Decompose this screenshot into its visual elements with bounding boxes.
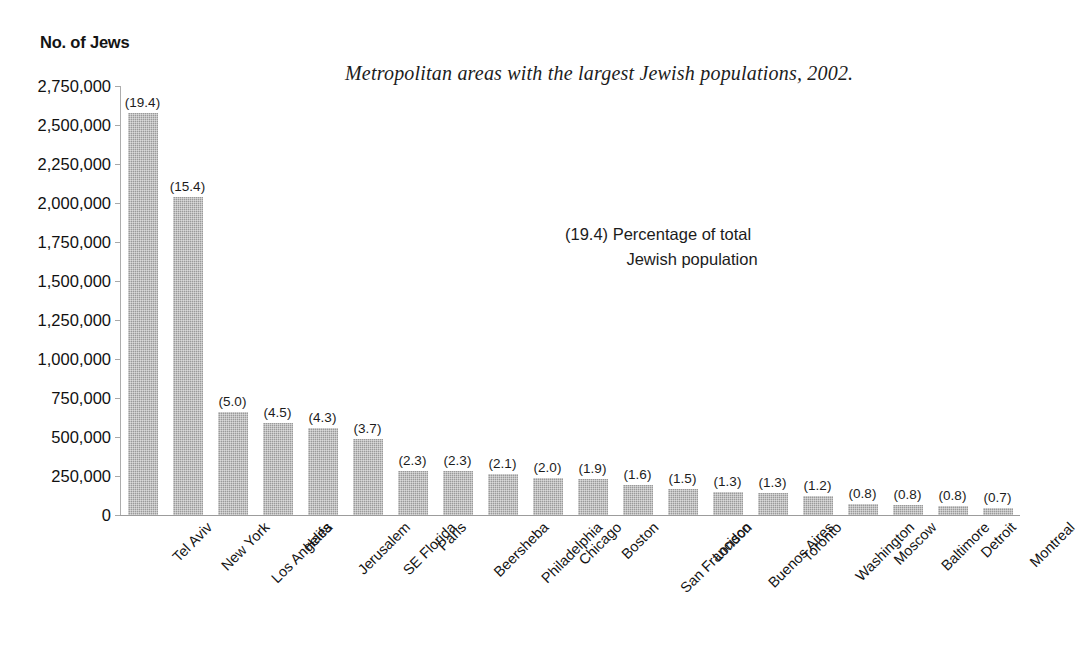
bar[interactable]: (5.0): [218, 412, 248, 515]
bar-item[interactable]: (2.3): [398, 86, 428, 515]
bar-item[interactable]: (0.8): [893, 86, 923, 515]
bar[interactable]: (1.2): [803, 496, 833, 515]
bar-value-label: (2.0): [534, 460, 562, 475]
bar-value-label: (3.7): [354, 421, 382, 436]
bar[interactable]: (1.3): [713, 492, 743, 515]
bar-value-label: (15.4): [170, 179, 205, 194]
bar-item[interactable]: (15.4): [173, 86, 203, 515]
bar[interactable]: (1.6): [623, 485, 653, 515]
y-tick-mark: [115, 125, 120, 126]
y-axis-title: No. of Jews: [40, 33, 130, 52]
bar[interactable]: (2.3): [398, 471, 428, 515]
y-tick-mark: [115, 359, 120, 360]
y-tick-label: 250,000: [51, 467, 111, 486]
y-tick-mark: [115, 515, 120, 516]
bar[interactable]: (0.8): [893, 505, 923, 515]
y-tick-label: 2,250,000: [38, 155, 111, 174]
bar-item[interactable]: (4.3): [308, 86, 338, 515]
bar[interactable]: (2.0): [533, 478, 563, 515]
bar-item[interactable]: (1.6): [623, 86, 653, 515]
y-tick-label: 0: [102, 506, 111, 525]
bar-value-label: (0.7): [984, 490, 1012, 505]
bar-item[interactable]: (0.8): [938, 86, 968, 515]
bar[interactable]: (3.7): [353, 439, 383, 515]
bar-value-label: (1.6): [624, 467, 652, 482]
bar-item[interactable]: (2.1): [488, 86, 518, 515]
bar-value-label: (2.3): [444, 453, 472, 468]
x-category-label: Montreal: [1026, 519, 1077, 570]
bar-item[interactable]: (2.3): [443, 86, 473, 515]
y-tick-mark: [115, 398, 120, 399]
y-tick-label: 2,000,000: [38, 194, 111, 213]
bar-item[interactable]: (1.2): [803, 86, 833, 515]
x-axis-category-labels: Tel AvivNew YorkLos AngelesHaifaJerusale…: [120, 519, 1020, 659]
x-category-label: London: [709, 519, 755, 565]
bar[interactable]: (2.3): [443, 471, 473, 515]
x-category-label: Boston: [618, 519, 661, 562]
bar-value-label: (4.5): [264, 405, 292, 420]
bar[interactable]: (4.5): [263, 423, 293, 515]
bar-item[interactable]: (19.4): [128, 86, 158, 515]
bar-item[interactable]: (1.3): [713, 86, 743, 515]
bar-value-label: (2.3): [399, 453, 427, 468]
bar-value-label: (0.8): [939, 488, 967, 503]
bar-value-label: (4.3): [309, 410, 337, 425]
y-tick-label: 2,750,000: [38, 77, 111, 96]
y-tick-mark: [115, 281, 120, 282]
bar[interactable]: (1.5): [668, 489, 698, 515]
bar-item[interactable]: (1.3): [758, 86, 788, 515]
y-tick-label: 500,000: [51, 428, 111, 447]
bar-value-label: (5.0): [219, 394, 247, 409]
bar[interactable]: (0.8): [938, 506, 968, 515]
bar[interactable]: (2.1): [488, 474, 518, 515]
bar-value-label: (2.1): [489, 456, 517, 471]
bar[interactable]: (15.4): [173, 197, 203, 515]
y-tick-mark: [115, 476, 120, 477]
y-tick-mark: [115, 203, 120, 204]
bar[interactable]: (4.3): [308, 428, 338, 515]
bar-item[interactable]: (4.5): [263, 86, 293, 515]
y-tick-mark: [115, 437, 120, 438]
bar-value-label: (1.5): [669, 471, 697, 486]
bar-value-label: (0.8): [849, 486, 877, 501]
bar-item[interactable]: (3.7): [353, 86, 383, 515]
bar-item[interactable]: (5.0): [218, 86, 248, 515]
bar-item[interactable]: (1.5): [668, 86, 698, 515]
bar-value-label: (1.9): [579, 461, 607, 476]
bar[interactable]: (0.8): [848, 504, 878, 515]
plot-area: 2,750,0002,500,0002,250,0002,000,0001,75…: [120, 86, 1020, 515]
x-category-label: Tel Aviv: [169, 519, 215, 565]
bar[interactable]: (19.4): [128, 113, 158, 515]
y-tick-mark: [115, 164, 120, 165]
x-category-label: New York: [217, 519, 272, 574]
y-tick-label: 1,250,000: [38, 311, 111, 330]
bar-item[interactable]: (0.7): [983, 86, 1013, 515]
bar-item[interactable]: (0.8): [848, 86, 878, 515]
y-tick-label: 1,500,000: [38, 272, 111, 291]
y-tick-mark: [115, 242, 120, 243]
y-axis-line: [120, 86, 121, 516]
bar-value-label: (1.3): [714, 474, 742, 489]
bar-value-label: (1.2): [804, 478, 832, 493]
figure-title: Metropolitan areas with the largest Jewi…: [345, 62, 853, 85]
y-tick-label: 1,750,000: [38, 233, 111, 252]
bar-value-label: (0.8): [894, 487, 922, 502]
bar-value-label: (19.4): [125, 95, 160, 110]
y-tick-mark: [115, 86, 120, 87]
bar[interactable]: (0.7): [983, 508, 1013, 515]
y-tick-label: 1,000,000: [38, 350, 111, 369]
bar-item[interactable]: (2.0): [533, 86, 563, 515]
bar-value-label: (1.3): [759, 475, 787, 490]
y-tick-label: 750,000: [51, 389, 111, 408]
bar[interactable]: (1.9): [578, 479, 608, 515]
bar-item[interactable]: (1.9): [578, 86, 608, 515]
bar[interactable]: (1.3): [758, 493, 788, 515]
x-axis-line: [120, 515, 1020, 516]
y-tick-label: 2,500,000: [38, 116, 111, 135]
y-tick-mark: [115, 320, 120, 321]
